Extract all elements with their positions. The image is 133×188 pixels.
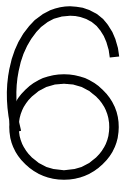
- glyph-canvas: 6: [0, 0, 133, 188]
- background-rect: [0, 0, 133, 188]
- digit-six-svg: [0, 0, 133, 188]
